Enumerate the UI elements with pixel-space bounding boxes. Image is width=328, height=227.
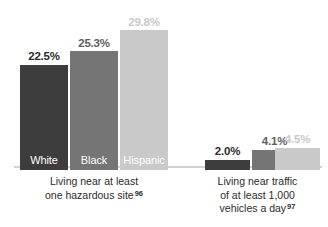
caption-line-3-text: vehicles a day	[220, 202, 287, 214]
bar-value-hispanic-traffic: 4.5%	[285, 133, 310, 145]
caption-line-1: Living near traffic	[190, 175, 325, 189]
bar-value-white-hazardous: 22.5%	[28, 50, 60, 62]
caption-line-3: vehicles a day97	[190, 202, 325, 217]
caption-line-2: one hazardous site96	[14, 189, 174, 204]
bar-category-white: White	[20, 154, 68, 166]
bar-rect-black-hazardous: Black	[70, 51, 118, 170]
caption-traffic: Living near traffic of at least 1,000 ve…	[190, 175, 325, 217]
bar-rect-white-hazardous: White	[20, 65, 68, 170]
caption-line-2: of at least 1,000	[190, 189, 325, 203]
caption-line-2-text: one hazardous site	[45, 189, 134, 201]
bar-chart: 22.5% White 25.3% Black 29.8% Hispanic 2…	[0, 0, 328, 227]
bar-rect-white-traffic	[205, 160, 250, 170]
bar-black-hazardous[interactable]: 25.3% Black	[70, 3, 118, 170]
caption-line-1: Living near at least	[14, 175, 174, 189]
bar-rect-hispanic-hazardous: Hispanic	[120, 30, 168, 170]
bar-value-white-traffic: 2.0%	[215, 145, 240, 157]
bar-value-hispanic-hazardous: 29.8%	[128, 16, 160, 28]
bar-white-traffic[interactable]: 2.0%	[205, 3, 250, 170]
bar-category-black: Black	[70, 154, 118, 166]
bar-white-hazardous[interactable]: 22.5% White	[20, 3, 68, 170]
bar-category-hispanic: Hispanic	[120, 154, 168, 166]
bar-hispanic-traffic[interactable]: 4.5%	[275, 3, 320, 170]
bar-rect-hispanic-traffic	[275, 148, 320, 170]
bar-hispanic-hazardous[interactable]: 29.8% Hispanic	[120, 3, 168, 170]
footnote-97: 97	[287, 202, 295, 211]
bar-value-black-hazardous: 25.3%	[78, 37, 110, 49]
caption-hazardous-site: Living near at least one hazardous site9…	[14, 175, 174, 203]
footnote-96: 96	[135, 189, 143, 198]
plot-area: 22.5% White 25.3% Black 29.8% Hispanic 2…	[0, 0, 328, 170]
